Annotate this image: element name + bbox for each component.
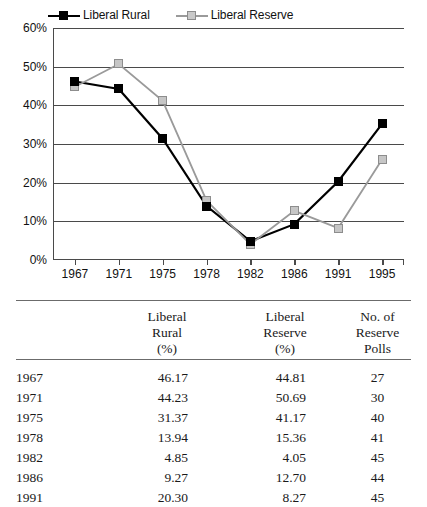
column-header-reserve-polls-line1: No. of: [344, 309, 411, 325]
data-point-liberal-reserve-1995: [378, 155, 387, 164]
table-row: 197813.9415.3641: [16, 428, 411, 448]
y-axis-tick-label: 0%: [30, 253, 47, 267]
y-axis-tick-label: 50%: [23, 60, 47, 74]
cell-liberal-reserve: 50.69: [226, 388, 344, 408]
column-header-liberal-rural-line3: (%): [108, 341, 226, 357]
data-point-liberal-rural-1995: [378, 119, 387, 128]
cell-liberal-reserve: 8.27: [226, 488, 344, 507]
cell-year: 1991: [16, 488, 108, 507]
column-header-liberal-reserve: Liberal Reserve (%): [226, 309, 344, 357]
x-axis-tick-mark: [207, 260, 209, 265]
x-axis-tick-label: 1995: [369, 267, 396, 281]
cell-liberal-rural: 9.27: [108, 468, 226, 488]
cell-liberal-reserve: 15.36: [226, 428, 344, 448]
x-axis-tick-label: 1978: [193, 267, 220, 281]
x-axis-tick-label: 1971: [105, 267, 132, 281]
chart-legend: Liberal Rural Liberal Reserve: [48, 6, 293, 24]
column-header-reserve-polls-line3: Polls: [344, 341, 411, 357]
y-axis-tick-label: 20%: [23, 176, 47, 190]
cell-liberal-rural: 13.94: [108, 428, 226, 448]
table-row: 199120.308.2745: [16, 488, 411, 507]
data-point-liberal-reserve-1975: [158, 96, 167, 105]
data-table: Liberal Rural (%) Liberal Reserve (%) No…: [16, 309, 411, 357]
cell-reserve-polls: 44: [344, 468, 411, 488]
x-axis-tick-label: 1986: [281, 267, 308, 281]
cell-year: 1967: [16, 368, 108, 388]
x-axis-tick-label: 1967: [62, 267, 89, 281]
data-point-liberal-rural-1991: [334, 177, 343, 186]
legend-item-liberal-reserve: Liberal Reserve: [176, 8, 294, 22]
x-axis-tick-mark: [163, 260, 165, 265]
table-row: 197144.2350.6930: [16, 388, 411, 408]
table-row: 196746.1744.8127: [16, 368, 411, 388]
cell-year: 1982: [16, 448, 108, 468]
y-axis-tick-label: 10%: [23, 214, 47, 228]
y-axis-tick-label: 30%: [23, 137, 47, 151]
data-point-liberal-rural-1978: [202, 202, 211, 211]
cell-year: 1975: [16, 408, 108, 428]
column-header-liberal-rural-line1: Liberal: [108, 309, 226, 325]
cell-liberal-rural: 31.37: [108, 408, 226, 428]
x-axis-end-tick: [403, 260, 405, 265]
legend-swatch-open-square-icon: [176, 10, 208, 21]
legend-item-liberal-rural: Liberal Rural: [48, 8, 150, 22]
x-axis-tick-mark: [338, 260, 340, 265]
cell-reserve-polls: 45: [344, 448, 411, 468]
table-header-rule: [16, 359, 411, 360]
column-header-liberal-rural: Liberal Rural (%): [108, 309, 226, 357]
data-point-liberal-reserve-1971: [114, 59, 123, 68]
legend-label-liberal-rural: Liberal Rural: [83, 8, 150, 22]
cell-liberal-rural: 44.23: [108, 388, 226, 408]
column-header-reserve-polls-line2: Reserve: [344, 325, 411, 341]
table-top-rule: [16, 300, 411, 301]
cell-reserve-polls: 41: [344, 428, 411, 448]
table-row: 197531.3741.1740: [16, 408, 411, 428]
cell-year: 1971: [16, 388, 108, 408]
legend-swatch-filled-square-icon: [48, 10, 80, 21]
cell-liberal-reserve: 4.05: [226, 448, 344, 468]
x-axis-tick-label: 1991: [325, 267, 352, 281]
data-point-liberal-reserve-1986: [290, 206, 299, 215]
x-axis-tick-label: 1975: [149, 267, 176, 281]
cell-liberal-rural: 4.85: [108, 448, 226, 468]
column-header-reserve-polls: No. of Reserve Polls: [344, 309, 411, 357]
cell-reserve-polls: 45: [344, 488, 411, 507]
table-row: 19869.2712.7044: [16, 468, 411, 488]
data-point-liberal-reserve-1991: [334, 224, 343, 233]
x-axis-tick-mark: [250, 260, 252, 265]
cell-reserve-polls: 40: [344, 408, 411, 428]
x-axis-tick-mark: [294, 260, 296, 265]
data-table-body: 196746.1744.8127197144.2350.6930197531.3…: [16, 368, 411, 507]
cell-liberal-reserve: 41.17: [226, 408, 344, 428]
cell-year: 1986: [16, 468, 108, 488]
data-point-liberal-rural-1986: [290, 220, 299, 229]
cell-liberal-rural: 46.17: [108, 368, 226, 388]
y-axis-tick-label: 60%: [23, 21, 47, 35]
y-axis-tick-label: 40%: [23, 98, 47, 112]
data-point-liberal-rural-1982: [246, 237, 255, 246]
cell-reserve-polls: 30: [344, 388, 411, 408]
cell-year: 1978: [16, 428, 108, 448]
table-header-row: Liberal Rural (%) Liberal Reserve (%) No…: [16, 309, 411, 357]
column-header-liberal-reserve-line3: (%): [226, 341, 344, 357]
column-header-year: [16, 309, 108, 357]
legend-label-liberal-reserve: Liberal Reserve: [211, 8, 294, 22]
line-chart: Liberal Rural Liberal Reserve 0%10%20%30…: [0, 0, 427, 296]
cell-liberal-reserve: 44.81: [226, 368, 344, 388]
data-point-liberal-rural-1975: [158, 134, 167, 143]
cell-liberal-reserve: 12.70: [226, 468, 344, 488]
x-axis-tick-mark: [75, 260, 77, 265]
plot-area: 0%10%20%30%40%50%60% 1967197119751978198…: [53, 28, 404, 260]
x-axis-tick-mark: [119, 260, 121, 265]
cell-liberal-rural: 20.30: [108, 488, 226, 507]
data-point-liberal-rural-1971: [114, 84, 123, 93]
column-header-liberal-reserve-line1: Liberal: [226, 309, 344, 325]
series-line-liberal-rural: [75, 81, 382, 241]
x-axis-tick-mark: [382, 260, 384, 265]
table-row: 19824.854.0545: [16, 448, 411, 468]
column-header-liberal-rural-line2: Rural: [108, 325, 226, 341]
column-header-liberal-reserve-line2: Reserve: [226, 325, 344, 341]
data-point-liberal-rural-1967: [70, 77, 79, 86]
data-table-panel: Liberal Rural (%) Liberal Reserve (%) No…: [0, 296, 427, 507]
series-lines: [53, 28, 404, 260]
